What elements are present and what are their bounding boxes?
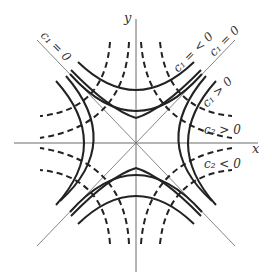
y-axis-label: y [123,10,132,25]
solid-curves-left [56,76,94,205]
label-c2-negative: c₂ < 0 [204,157,241,171]
solid-curve [60,76,94,201]
diagram-canvas: y x c₁ = 0 c₁ = 0 c₁ = < 0 c₁ > 0 c₂ > 0… [0,0,272,279]
label-c2-positive: c₂ > 0 [204,123,241,137]
label-c1-positive: c₁ > 0 [199,74,235,110]
orthogonal-hyperbolas-diagram: y x c₁ = 0 c₁ = 0 c₁ = < 0 c₁ > 0 c₂ > 0… [0,0,272,279]
x-axis-label: x [252,141,260,156]
